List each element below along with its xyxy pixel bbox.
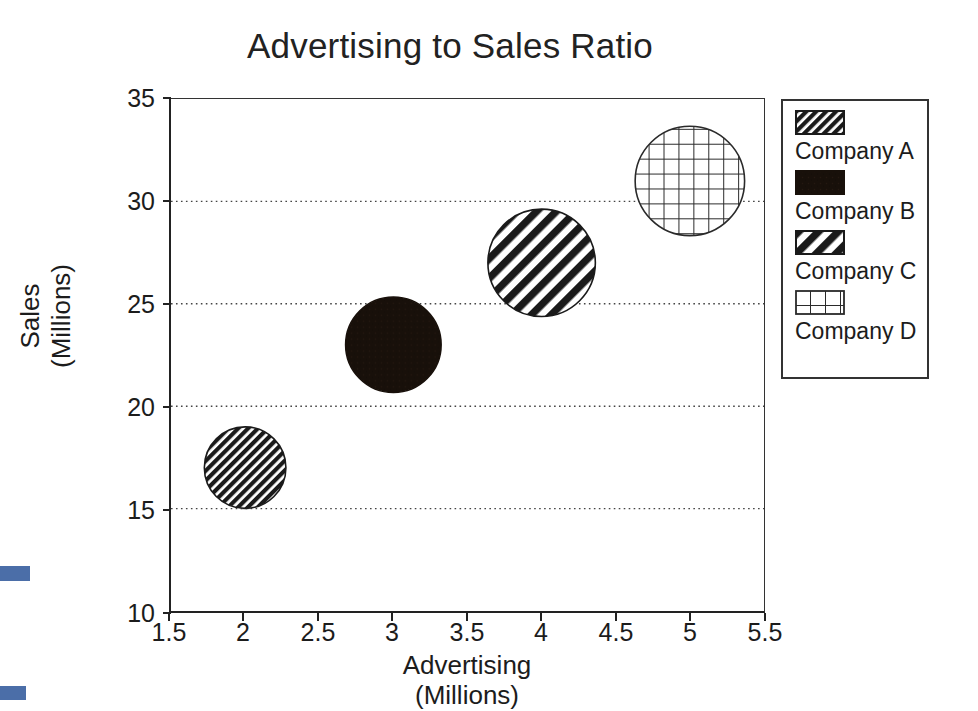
ytick-label-15: 15 — [109, 496, 155, 525]
ytick-label-20: 20 — [109, 393, 155, 422]
ytick-label-30: 30 — [109, 187, 155, 216]
ytick-label-25: 25 — [109, 290, 155, 319]
y-axis-title: Sales (Millions) — [15, 226, 77, 406]
legend-entry-company-a: Company A — [795, 110, 927, 167]
legend-label-company-c: Company C — [795, 256, 927, 287]
xtick-label-3: 3 — [385, 618, 399, 647]
ytick-mark-25 — [163, 303, 171, 305]
legend-entry-company-c: Company C — [795, 230, 927, 287]
legend: Company A Company B Company C Company D — [781, 99, 929, 379]
xtick-label-4-5: 4.5 — [599, 618, 634, 647]
plot-canvas — [171, 99, 764, 611]
legend-label-company-a: Company A — [795, 136, 927, 167]
xtick-label-4: 4 — [534, 618, 548, 647]
legend-swatch-company-b — [795, 170, 845, 195]
x-axis-title-line2: (Millions) — [415, 680, 519, 710]
y-axis-tick-labels: 35 30 25 20 15 10 — [105, 98, 155, 613]
legend-label-company-b: Company B — [795, 196, 927, 227]
legend-swatch-company-d — [795, 290, 845, 315]
ytick-mark-35 — [163, 97, 171, 99]
xtick-label-1-5: 1.5 — [152, 618, 187, 647]
bubble-company-a — [204, 427, 286, 509]
xtick-label-5-5: 5.5 — [748, 618, 783, 647]
x-axis-title: Advertising (Millions) — [169, 650, 765, 710]
legend-label-company-d: Company D — [795, 316, 927, 347]
plot-area — [169, 98, 765, 613]
xtick-label-3-5: 3.5 — [450, 618, 485, 647]
ytick-mark-20 — [163, 406, 171, 408]
bubble-company-c — [488, 209, 595, 316]
ytick-label-35: 35 — [109, 84, 155, 113]
legend-swatch-company-c — [795, 230, 845, 255]
legend-entry-company-d: Company D — [795, 290, 927, 347]
bubble-chart: Advertising to Sales Ratio — [0, 0, 978, 711]
scan-artifact-lower — [0, 686, 26, 700]
y-axis-title-line1: Sales — [15, 283, 45, 348]
scan-artifact-upper — [0, 566, 30, 581]
chart-title: Advertising to Sales Ratio — [0, 26, 900, 66]
bubble-company-b — [346, 297, 442, 392]
bubble-company-d — [635, 126, 744, 235]
xtick-label-2-5: 2.5 — [301, 618, 336, 647]
legend-entry-company-b: Company B — [795, 170, 927, 227]
xtick-label-2: 2 — [236, 618, 250, 647]
xtick-label-5: 5 — [683, 618, 697, 647]
x-axis-tick-labels: 1.5 2 2.5 3 3.5 4 4.5 5 5.5 — [169, 618, 765, 652]
legend-swatch-company-a — [795, 110, 845, 135]
ytick-mark-30 — [163, 200, 171, 202]
x-axis-title-line1: Advertising — [403, 650, 532, 680]
ytick-mark-15 — [163, 509, 171, 511]
ytick-label-10: 10 — [109, 599, 155, 628]
y-axis-title-line2: (Millions) — [46, 226, 77, 406]
